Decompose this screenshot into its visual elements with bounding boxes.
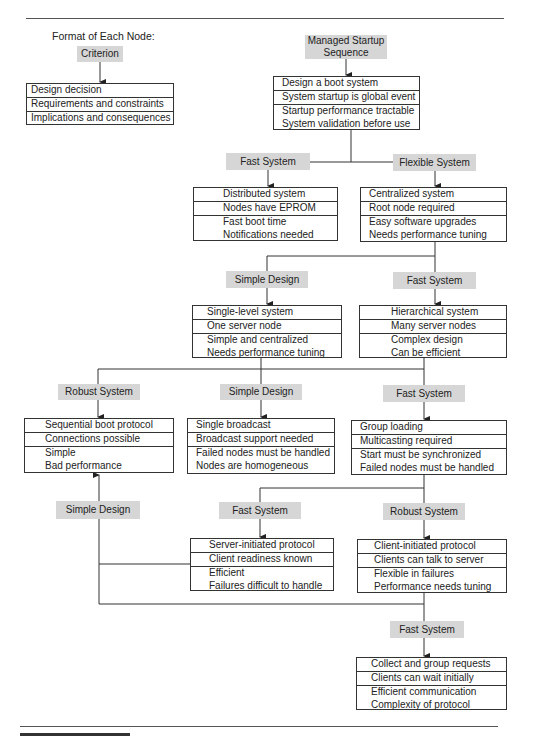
top-rule bbox=[26, 18, 504, 19]
node-decision: Client-initiated protocol bbox=[358, 540, 506, 554]
node-centralized: Centralized system Root node required Ea… bbox=[360, 187, 507, 242]
node-hierarchical: Hierarchical system Many server nodes Co… bbox=[359, 305, 507, 358]
node-decision: Group loading bbox=[352, 421, 506, 435]
node-client-initiated: Client-initiated protocol Clients can ta… bbox=[357, 539, 507, 593]
root-label-line-2: Sequence bbox=[323, 47, 368, 59]
node-implications: Simple and centralized Needs performance… bbox=[193, 334, 341, 359]
node-decision: Single broadcast bbox=[188, 419, 334, 433]
node-decision: Server-initiated protocol bbox=[191, 539, 333, 553]
node-group-loading: Group loading Multicasting required Star… bbox=[351, 420, 507, 475]
criterion-fast-system: Fast System bbox=[393, 272, 476, 289]
node-decision: Distributed system bbox=[194, 188, 337, 202]
node-decision: Single-level system bbox=[193, 306, 341, 320]
root-label-line-1: Managed Startup bbox=[308, 35, 385, 47]
node-implications: Easy software upgrades Needs performance… bbox=[361, 216, 506, 241]
node-requirements: Broadcast support needed bbox=[188, 433, 334, 447]
node-requirements: System startup is global event bbox=[274, 91, 419, 105]
bottom-rule bbox=[20, 726, 498, 727]
node-distributed: Distributed system Nodes have EPROM Fast… bbox=[193, 187, 338, 241]
node-implications: Complex design Can be efficient bbox=[360, 334, 506, 359]
node-decision: Design a boot system bbox=[274, 77, 419, 91]
node-sequential: Sequential boot protocol Connections pos… bbox=[24, 418, 174, 473]
legend-node: Design decision Requirements and constra… bbox=[26, 83, 174, 125]
legend-title: Format of Each Node: bbox=[52, 30, 155, 42]
node-implications: Startup performance tractable System val… bbox=[274, 105, 419, 130]
node-decision: Collect and group requests bbox=[357, 658, 506, 672]
root-label: Managed Startup Sequence bbox=[305, 35, 387, 59]
criterion-robust-system: Robust System bbox=[58, 384, 140, 400]
criterion-robust-system: Robust System bbox=[383, 503, 465, 520]
criterion-fast-system: Fast System bbox=[383, 385, 465, 402]
figure-caption-truncated bbox=[20, 731, 130, 736]
node-broadcast: Single broadcast Broadcast support neede… bbox=[187, 418, 335, 474]
node-implications: Start must be synchronized Failed nodes … bbox=[352, 449, 506, 474]
node-root: Design a boot system System startup is g… bbox=[273, 76, 420, 130]
node-requirements: Clients can wait initially bbox=[357, 672, 506, 686]
node-requirements: Client readiness known bbox=[191, 553, 333, 567]
criterion-simple-design: Simple Design bbox=[220, 384, 302, 400]
node-implications: Efficient Failures difficult to handle bbox=[191, 567, 333, 592]
node-single-level: Single-level system One server node Simp… bbox=[192, 305, 342, 358]
node-implications: Efficient communication Complexity of pr… bbox=[357, 686, 506, 711]
criterion-fast-system: Fast System bbox=[226, 153, 310, 170]
node-implications: Simple Bad performance bbox=[25, 447, 173, 472]
criterion-fast-system: Fast System bbox=[390, 621, 464, 638]
criterion-simple-design-back-edge: Simple Design bbox=[56, 501, 140, 519]
legend-row-implications: Implications and consequences bbox=[27, 112, 173, 125]
node-requirements: Root node required bbox=[361, 202, 506, 216]
node-implications: Flexible in failures Performance needs t… bbox=[358, 568, 506, 593]
node-collect-group: Collect and group requests Clients can w… bbox=[356, 657, 507, 710]
node-decision: Hierarchical system bbox=[360, 306, 506, 320]
node-requirements: Multicasting required bbox=[352, 435, 506, 449]
node-decision: Sequential boot protocol bbox=[25, 419, 173, 433]
node-implications: Fast boot time Notifications needed bbox=[194, 216, 337, 241]
legend-criterion-label: Criterion bbox=[77, 46, 123, 62]
node-requirements: Clients can talk to server bbox=[358, 554, 506, 568]
criterion-flexible-system: Flexible System bbox=[393, 154, 476, 171]
node-requirements: Many server nodes bbox=[360, 320, 506, 334]
node-requirements: Nodes have EPROM bbox=[194, 202, 337, 216]
criterion-simple-design: Simple Design bbox=[226, 271, 308, 288]
legend-row-requirements: Requirements and constraints bbox=[27, 98, 173, 112]
node-decision: Centralized system bbox=[361, 188, 506, 202]
node-requirements: One server node bbox=[193, 320, 341, 334]
node-server-initiated: Server-initiated protocol Client readine… bbox=[190, 538, 334, 591]
node-implications: Failed nodes must be handled Nodes are h… bbox=[188, 447, 334, 472]
node-requirements: Connections possible bbox=[25, 433, 173, 447]
legend-row-decision: Design decision bbox=[27, 84, 173, 98]
criterion-fast-system: Fast System bbox=[219, 502, 301, 519]
